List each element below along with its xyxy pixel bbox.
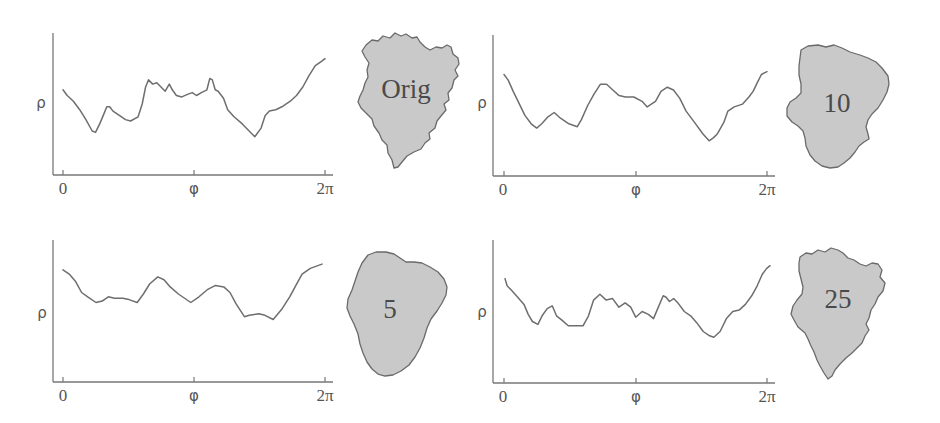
x-tick-label-2pi: 2π — [316, 179, 334, 198]
y-axis-label: ρ — [477, 94, 487, 112]
shape-label-5: 5 — [383, 294, 397, 324]
plot-25: 0 φ 2π ρ — [477, 240, 776, 406]
x-axis-label: φ — [189, 180, 199, 198]
y-axis-label: ρ — [477, 303, 487, 321]
x-axis-label: φ — [631, 181, 641, 199]
rho-curve-5 — [63, 264, 322, 319]
x-tick-label-0: 0 — [59, 179, 68, 198]
shape-5: 5 — [347, 252, 447, 376]
x-tick-label-2pi: 2π — [316, 386, 334, 405]
plot-10: 0 φ 2π ρ — [477, 35, 776, 199]
rho-curve-10 — [504, 72, 767, 141]
figure: 0 φ 2π ρ Orig 0 φ 2π ρ 10 — [0, 0, 940, 423]
x-tick-label-0: 0 — [59, 386, 68, 405]
shape-outline-5 — [347, 252, 447, 376]
panel-10: 0 φ 2π ρ 10 — [477, 35, 889, 199]
rho-curve-25 — [505, 266, 770, 338]
rho-curve-orig — [63, 59, 325, 137]
y-axis-label: ρ — [36, 94, 46, 112]
shape-orig: Orig — [358, 33, 459, 168]
shape-label-10: 10 — [824, 88, 851, 118]
shape-label-orig: Orig — [381, 74, 431, 104]
panel-orig: 0 φ 2π ρ Orig — [36, 33, 459, 198]
plot-orig: 0 φ 2π ρ — [36, 33, 334, 198]
plot-5: 0 φ 2π ρ — [37, 240, 334, 405]
x-tick-label-2pi: 2π — [758, 180, 776, 199]
x-tick-label-0: 0 — [499, 387, 508, 406]
x-axis-label: φ — [631, 388, 641, 406]
shape-label-25: 25 — [825, 284, 852, 314]
x-axis-label: φ — [189, 387, 199, 405]
x-tick-label-2pi: 2π — [758, 387, 776, 406]
panel-5: 0 φ 2π ρ 5 — [37, 240, 447, 405]
panel-25: 0 φ 2π ρ 25 — [477, 240, 885, 406]
shape-25: 25 — [791, 248, 885, 379]
y-axis-label: ρ — [37, 304, 47, 322]
shape-10: 10 — [787, 45, 889, 168]
x-tick-label-0: 0 — [499, 180, 508, 199]
